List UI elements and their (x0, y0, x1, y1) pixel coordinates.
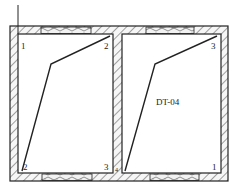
bottom-beam-right (150, 174, 199, 181)
top-beam-left (41, 27, 91, 34)
right-room-label-top-right: 3 (211, 41, 216, 51)
top-beam-right (146, 27, 194, 34)
wall-hatch (10, 26, 228, 181)
walls (10, 26, 228, 181)
left-room-label-bottom-right: 3 (104, 162, 109, 172)
left-room-label-top-left: 1 (21, 41, 26, 51)
left-room-label-bottom-left: 2 (23, 162, 28, 172)
room-code-label: DT-04 (156, 97, 180, 107)
left-room-outline (18, 34, 113, 173)
left-room-label-top-right: 2 (104, 41, 109, 51)
right-room-label-bottom-right: 1 (212, 162, 217, 172)
left-room-polyline (22, 36, 110, 171)
bottom-beam-left (42, 174, 92, 181)
frame-diagram: 1 2 2 3 3 1 4 DT-04 (0, 0, 235, 192)
right-room-label-bottom-left: 4 (115, 167, 118, 173)
